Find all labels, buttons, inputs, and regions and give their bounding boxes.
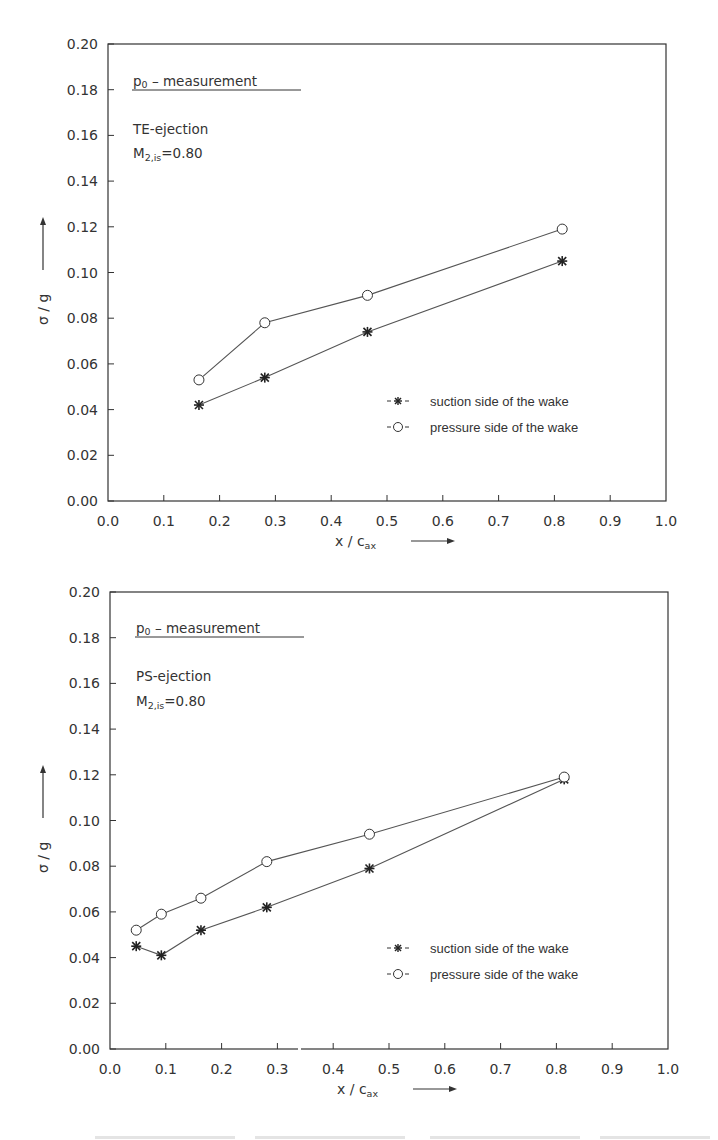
- x-tick-label: 0.7: [489, 1061, 511, 1077]
- ejection-case: PS-ejection: [136, 668, 211, 684]
- y-tick-label: 0.12: [69, 767, 100, 783]
- svg-text:σ / g: σ / g: [35, 842, 51, 873]
- x-tick-label: 0.0: [99, 1061, 121, 1077]
- legend-item: suction side of the wake: [387, 941, 569, 956]
- y-tick-label: 0.08: [67, 310, 98, 326]
- x-tick-label: 0.1: [155, 1061, 177, 1077]
- x-tick-label: 0.8: [545, 1061, 567, 1077]
- circle-marker-icon: [131, 925, 141, 935]
- legend-label: suction side of the wake: [430, 394, 569, 409]
- y-tick-label: 0.16: [67, 127, 98, 143]
- x-tick-label: 0.7: [487, 513, 509, 529]
- y-tick-label: 0.20: [69, 584, 100, 600]
- x-tick-label: 0.8: [543, 513, 565, 529]
- clipped-caption: [255, 1136, 405, 1139]
- x-tick-label: 0.3: [264, 513, 286, 529]
- circle-marker-icon: [156, 909, 166, 919]
- y-tick-label: 0.08: [69, 858, 100, 874]
- asterisk-marker-icon: [362, 327, 372, 337]
- circle-marker-icon: [196, 893, 206, 903]
- y-tick-label: 0.04: [67, 402, 98, 418]
- circle-marker-icon: [260, 318, 270, 328]
- legend-item: pressure side of the wake: [387, 420, 578, 435]
- asterisk-marker-icon: [262, 902, 272, 912]
- circle-marker-icon: [557, 224, 567, 234]
- legend-item: suction side of the wake: [387, 394, 569, 409]
- series-line: [136, 777, 564, 930]
- x-tick-label: 0.6: [434, 1061, 456, 1077]
- y-tick-label: 0.00: [69, 1041, 100, 1057]
- x-tick-label: 0.2: [210, 1061, 232, 1077]
- x-tick-label: 0.0: [97, 513, 119, 529]
- x-tick-label: 1.0: [655, 513, 677, 529]
- svg-text:σ / g: σ / g: [35, 294, 51, 325]
- legend-item: pressure side of the wake: [387, 967, 578, 982]
- y-tick-label: 0.12: [67, 219, 98, 235]
- x-tick-label: 0.5: [376, 513, 398, 529]
- asterisk-marker-icon: [364, 863, 374, 873]
- y-tick-label: 0.04: [69, 950, 100, 966]
- circle-marker-icon: [394, 970, 403, 979]
- series-line: [199, 229, 562, 380]
- x-tick-label: 0.4: [322, 1061, 344, 1077]
- plot-frame: [108, 44, 666, 501]
- asterisk-marker-icon: [196, 925, 206, 935]
- circle-marker-icon: [362, 290, 372, 300]
- y-tick-label: 0.02: [69, 995, 100, 1011]
- y-tick-label: 0.10: [67, 265, 98, 281]
- legend-label: pressure side of the wake: [430, 420, 578, 435]
- clipped-caption: [430, 1136, 580, 1139]
- figure: 0.000.020.040.060.080.100.120.140.160.18…: [0, 0, 718, 1140]
- y-tick-label: 0.18: [69, 630, 100, 646]
- x-axis-label: x / cax: [337, 1081, 378, 1099]
- y-tick-label: 0.14: [69, 721, 100, 737]
- y-tick-label: 0.02: [67, 447, 98, 463]
- asterisk-marker-icon: [260, 373, 270, 383]
- measurement-title: p0 – measurement: [133, 73, 257, 90]
- y-axis-label: σ / g: [35, 765, 51, 873]
- circle-marker-icon: [394, 423, 403, 432]
- mach-number: M2,is=0.80: [136, 693, 206, 711]
- circle-marker-icon: [262, 857, 272, 867]
- arrow-icon: [40, 765, 46, 773]
- plot-frame: [110, 592, 668, 1049]
- x-tick-label: 0.9: [601, 1061, 623, 1077]
- x-tick-label: 0.5: [378, 1061, 400, 1077]
- circle-marker-icon: [194, 375, 204, 385]
- measurement-title: p0 – measurement: [136, 620, 260, 637]
- circle-marker-icon: [364, 829, 374, 839]
- y-tick-label: 0.20: [67, 36, 98, 52]
- x-axis-label: x / cax: [335, 533, 376, 551]
- clipped-caption: [600, 1136, 710, 1139]
- chart-te-ejection: 0.000.020.040.060.080.100.120.140.160.18…: [35, 36, 677, 551]
- y-tick-label: 0.00: [67, 493, 98, 509]
- asterisk-marker-icon: [156, 950, 166, 960]
- mach-number: M2,is=0.80: [133, 145, 203, 163]
- asterisk-marker-icon: [194, 400, 204, 410]
- x-tick-label: 0.3: [266, 1061, 288, 1077]
- legend-label: suction side of the wake: [430, 941, 569, 956]
- ejection-case: TE-ejection: [132, 121, 208, 137]
- x-tick-label: 0.4: [320, 513, 342, 529]
- y-tick-label: 0.18: [67, 82, 98, 98]
- y-tick-label: 0.14: [67, 173, 98, 189]
- arrow-icon: [447, 538, 455, 544]
- y-tick-label: 0.06: [67, 356, 98, 372]
- circle-marker-icon: [559, 772, 569, 782]
- y-tick-label: 0.06: [69, 904, 100, 920]
- asterisk-marker-icon: [557, 256, 567, 266]
- x-tick-label: 0.1: [153, 513, 175, 529]
- y-axis-label: σ / g: [35, 217, 51, 325]
- asterisk-marker-icon: [131, 941, 141, 951]
- chart-ps-ejection: 0.000.020.040.060.080.100.120.140.160.18…: [35, 584, 679, 1099]
- y-tick-label: 0.16: [69, 675, 100, 691]
- clipped-caption: [95, 1136, 235, 1139]
- x-tick-label: 0.9: [599, 513, 621, 529]
- x-tick-label: 1.0: [657, 1061, 679, 1077]
- legend-label: pressure side of the wake: [430, 967, 578, 982]
- arrow-icon: [40, 217, 46, 225]
- arrow-icon: [449, 1086, 457, 1092]
- x-tick-label: 0.2: [208, 513, 230, 529]
- y-tick-label: 0.10: [69, 813, 100, 829]
- x-tick-label: 0.6: [432, 513, 454, 529]
